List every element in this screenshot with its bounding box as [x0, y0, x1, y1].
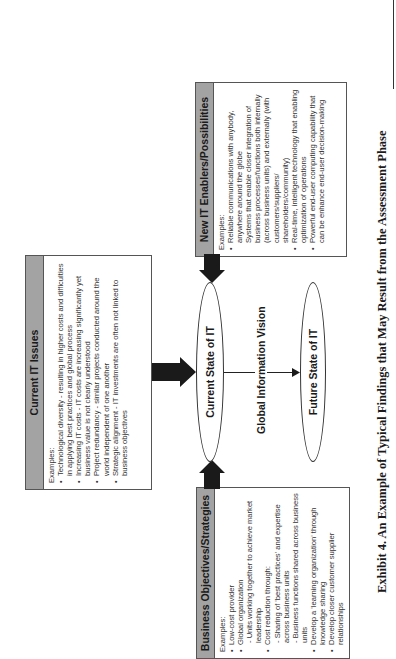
- business-objectives-box: Business Objectives/Strategies Examples:…: [196, 487, 350, 659]
- list-subitem: Systems that enable closer integration o…: [244, 88, 289, 250]
- current-it-issues-box: Current IT Issues Examples: Technologica…: [25, 255, 152, 490]
- list-item: Develop a 'learning organization' throug…: [309, 493, 327, 652]
- examples-label: Examples:: [217, 88, 226, 250]
- examples-label: Examples:: [218, 493, 227, 652]
- list-item: Powerful end-user computing capability t…: [308, 88, 326, 250]
- new-it-enablers-box: New IT Enablers/Possibilities Examples: …: [195, 82, 347, 257]
- future-state-ellipse: Future State of IT: [300, 282, 326, 462]
- business-objectives-title: Business Objectives/Strategies: [197, 488, 215, 658]
- list-item: Reliable communications with anybody, an…: [226, 88, 244, 250]
- list-item: Real-time, intelligent technology that e…: [290, 88, 308, 250]
- arrow-right-icon: [199, 459, 225, 489]
- current-state-ellipse: Current State of IT: [196, 282, 224, 462]
- list-item: Low-cost provider: [227, 493, 236, 652]
- new-it-enablers-list: Reliable communications with anybody, an…: [226, 88, 326, 250]
- exhibit-caption: Exhibit 4. An Example of Typical Finding…: [375, 130, 390, 593]
- connector-arrowhead-icon: [292, 368, 300, 377]
- current-it-issues-list: Technological diversity - resulting in h…: [56, 261, 129, 483]
- business-objectives-body: Examples: Low-cost provider Global organ…: [215, 488, 345, 658]
- new-it-enablers-body: Examples: Reliable communications with a…: [214, 83, 326, 256]
- rotated-page: Business Objectives/Strategies Examples:…: [0, 0, 396, 659]
- list-item: Global organization: [236, 493, 245, 652]
- list-subitem: - Units working together to achieve mark…: [245, 493, 263, 652]
- arrow-left-icon: [199, 254, 225, 284]
- page-rule: [393, 0, 394, 89]
- list-item: Technological diversity - resulting in h…: [56, 261, 74, 483]
- list-item: Strategic alignment - IT investments are…: [111, 261, 129, 483]
- arrow-down-icon: [152, 357, 197, 387]
- list-subitem: - Business functions shared across busin…: [291, 493, 309, 652]
- examples-label: Examples:: [47, 261, 56, 483]
- list-item: Cost reduction through:: [263, 493, 272, 652]
- connector-label: Global Information Vision: [255, 307, 267, 437]
- list-item: Develop closer customer supplier relatio…: [327, 493, 345, 652]
- list-subitem: - Sharing of 'best practices' and expert…: [273, 493, 291, 652]
- current-it-issues-title: Current IT Issues: [26, 256, 44, 489]
- business-objectives-list: Low-cost provider Global organization - …: [227, 493, 345, 652]
- list-item: Increasing IT costs - IT costs are incre…: [74, 261, 92, 483]
- list-item: Project redundancy - similar projects co…: [92, 261, 110, 483]
- new-it-enablers-title: New IT Enablers/Possibilities: [196, 83, 214, 256]
- current-it-issues-body: Examples: Technological diversity - resu…: [44, 256, 129, 489]
